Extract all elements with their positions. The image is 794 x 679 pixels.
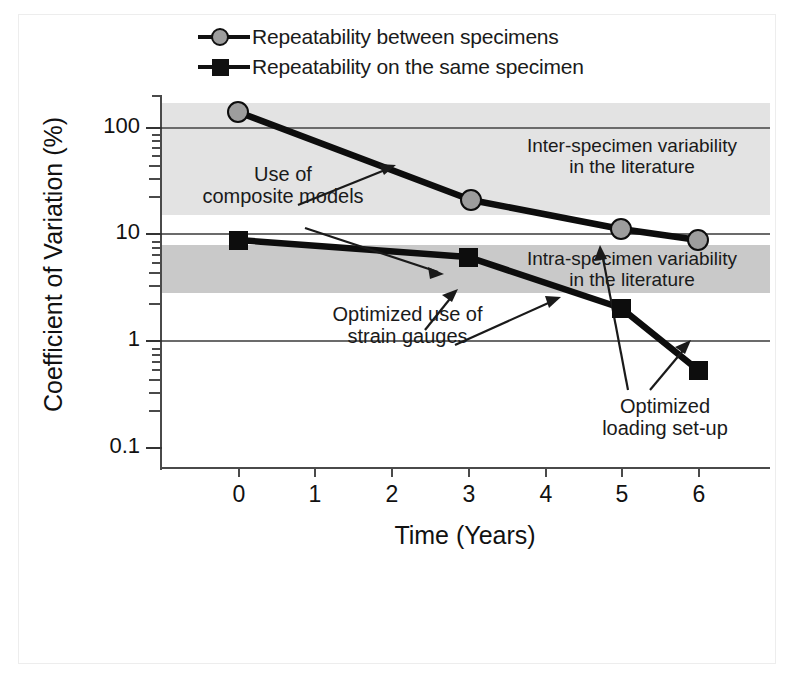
y-tick-100 [146,127,162,129]
x-tick-6 [698,467,700,477]
annotation-strain-gauges-line2: strain gauges [300,325,515,347]
x-axis-line [160,467,770,469]
y-tick-label-0-1: 0.1 [74,433,140,459]
y-axis-title: Coefficient of Variation (%) [39,100,68,430]
gridline-10 [160,233,770,235]
x-tick-4 [545,467,547,477]
inter-band-label-line2: in the literature [492,157,772,178]
x-tick-0 [238,467,240,477]
x-tick-label-1: 1 [300,481,330,508]
annotation-strain-gauges-line1: Optimized use of [300,303,515,325]
data-point-same-specimen-year-0 [229,231,248,250]
data-point-between-specimens-year-3 [460,189,482,211]
y-minor-tick [149,285,162,287]
data-point-same-specimen-year-6 [689,361,708,380]
y-minor-tick [152,95,162,97]
x-tick-label-6: 6 [684,481,714,508]
y-minor-tick [152,354,162,356]
data-point-same-specimen-year-3 [459,248,478,267]
x-tick-3 [468,467,470,477]
data-point-between-specimens-year-0 [227,101,249,123]
inter-band-label-line1: Inter-specimen variability [492,136,772,157]
x-tick-2 [391,467,393,477]
annotation-arrow-loading-setup-right [650,340,691,390]
y-minor-tick [149,178,162,180]
y-minor-tick [152,147,162,149]
y-tick-10 [146,233,162,235]
y-minor-tick [152,348,162,350]
annotation-loading-setup-line2: loading set-up [570,417,760,439]
y-minor-tick [149,272,162,274]
y-minor-tick [152,241,162,243]
y-minor-tick [152,361,162,363]
annotation-composite-line2: composite models [178,185,388,207]
x-tick-label-3: 3 [454,481,484,508]
gridline-100 [160,127,770,129]
y-minor-tick [152,369,162,371]
y-minor-tick [149,196,162,198]
y-axis-line [160,96,162,470]
inter-specimen-band-label: Inter-specimen variability in the litera… [492,136,772,177]
x-tick-label-0: 0 [224,481,254,508]
y-minor-tick [152,155,162,157]
y-minor-tick [149,165,162,167]
y-minor-tick [149,410,162,412]
y-minor-tick [149,392,162,394]
x-tick-1 [314,467,316,477]
data-point-between-specimens-year-5 [610,218,632,240]
intra-specimen-band-label: Intra-specimen variability in the litera… [492,249,772,290]
y-minor-tick [152,254,162,256]
y-minor-tick [149,303,162,305]
y-minor-tick [152,262,162,264]
annotation-use-of-composite-models: Use of composite models [178,163,388,207]
plot-area: Inter-specimen variability in the litera… [0,0,794,679]
y-tick-label-100: 100 [84,113,140,139]
y-minor-tick [152,134,162,136]
annotation-optimized-loading-set-up: Optimized loading set-up [570,395,760,439]
x-tick-5 [621,467,623,477]
figure-canvas: Repeatability between specimens Repeatab… [0,0,794,679]
y-minor-tick [152,247,162,249]
x-tick-label-5: 5 [607,481,637,508]
y-minor-tick [149,379,162,381]
annotation-loading-setup-line1: Optimized [570,395,760,417]
intra-band-label-line2: in the literature [492,270,772,291]
data-point-same-specimen-year-5 [612,299,631,318]
data-point-between-specimens-year-6 [687,229,709,251]
x-axis-title: Time (Years) [160,521,770,550]
x-tick-label-4: 4 [531,481,561,508]
y-tick-1 [146,340,162,342]
y-tick-label-10: 10 [84,219,140,245]
y-minor-tick [152,140,162,142]
annotation-composite-line1: Use of [178,163,388,185]
x-tick-label-2: 2 [377,481,407,508]
intra-band-label-line1: Intra-specimen variability [492,249,772,270]
y-tick-label-1: 1 [84,326,140,352]
y-tick-0-1 [146,447,162,449]
annotation-optimized-use-of-strain-gauges: Optimized use of strain gauges [300,303,515,347]
